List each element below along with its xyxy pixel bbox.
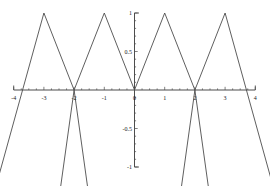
y-tick-label: 1	[129, 10, 132, 16]
seg-right-trough-down	[195, 90, 212, 186]
y-tick-label: 0.5	[125, 49, 133, 55]
x-tick-label: -1	[102, 95, 107, 101]
x-tick-label: 2	[193, 95, 196, 101]
x-tick-label: 0	[133, 95, 136, 101]
y-tick-label: -1	[127, 164, 132, 170]
seg-left-inner-up	[74, 13, 104, 90]
seg-origin-right-up	[135, 13, 165, 90]
seg-far-left-up	[0, 13, 44, 186]
seg-far-right-down	[225, 13, 270, 186]
x-tick-label: -4	[11, 95, 16, 101]
x-tick-label: -2	[72, 95, 77, 101]
x-tick-label: 4	[254, 95, 257, 101]
seg-left-outer-down	[44, 13, 74, 90]
y-tick-label: -0.5	[123, 126, 133, 132]
seg-right-inner-down	[165, 13, 195, 90]
seg-left-trough-down	[74, 90, 91, 186]
x-tick-label: 3	[224, 95, 227, 101]
x-tick-label: 1	[163, 95, 166, 101]
seg-left-trough-up	[57, 90, 74, 186]
triangle-wave-plot: -4-3-2-10123410.5-0.5-1	[0, 0, 270, 186]
seg-right-trough-up	[178, 90, 195, 186]
x-tick-label: -3	[41, 95, 46, 101]
plot-canvas	[0, 0, 270, 186]
seg-right-outer-up	[195, 13, 225, 90]
